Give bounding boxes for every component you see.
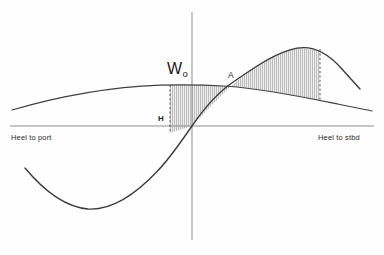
label-w-zero: Wo	[167, 60, 187, 78]
shaded-area-righting	[226, 44, 324, 106]
diagram-canvas	[0, 0, 384, 255]
label-w-zero-subscript: o	[183, 68, 188, 79]
x-axis-label-stbd: Heel to stbd	[318, 133, 360, 142]
x-axis-label-port: Heel to port	[11, 133, 52, 142]
stability-curve-diagram: Heel to port Heel to stbd Wo A H	[0, 0, 384, 255]
label-point-a: A	[228, 70, 234, 80]
label-point-h: H	[158, 114, 164, 123]
label-w-zero-main: W	[167, 60, 182, 77]
